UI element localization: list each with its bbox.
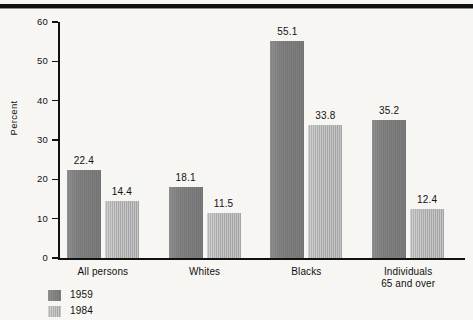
y-tick-10 [52,218,58,220]
bar-group: 55.133.8Blacks [270,22,342,258]
y-tick-40 [52,100,58,102]
bar-value-label: 22.4 [74,156,94,166]
y-tick-0 [52,257,58,259]
y-tick-60 [52,21,58,23]
y-tick-30 [52,139,58,141]
bar-group: 18.111.5Whites [169,22,241,258]
legend-item-1984[interactable]: 1984 [48,304,93,318]
plot-area: 0102030405060 22.414.4All persons18.111.… [58,22,465,258]
bar-1959-3[interactable] [270,41,304,258]
y-tick-label-30: 30 [2,135,48,145]
top-rule-divider [0,4,473,8]
legend-swatch-1959 [48,290,61,301]
bar-1959-4[interactable] [372,120,406,258]
y-tick-label-60: 60 [2,17,48,27]
y-tick-label-20: 20 [2,174,48,184]
y-tick-label-50: 50 [2,56,48,66]
legend-item-1959[interactable]: 1959 [48,288,93,302]
bar-group: 22.414.4All persons [67,22,139,258]
y-tick-label-0: 0 [2,253,48,263]
bar-1984-4[interactable] [410,209,444,258]
x-category-label: Blacks [291,266,321,278]
x-category-label: Individuals 65 and over [381,266,435,289]
y-tick-50 [52,61,58,63]
chart-figure: Percent 0102030405060 22.414.4All person… [0,0,473,320]
y-tick-label-40: 40 [2,96,48,106]
y-axis-line [58,22,60,258]
bar-1984-2[interactable] [207,213,241,258]
bar-value-label: 12.4 [417,195,437,205]
bar-group: 35.212.4Individuals 65 and over [372,22,444,258]
x-category-label: Whites [189,266,220,278]
bar-1984-1[interactable] [105,201,139,258]
y-tick-20 [52,179,58,181]
chart-legend: 1959 1984 [48,288,93,320]
legend-label-1984: 1984 [70,306,93,316]
x-axis-line [58,258,465,260]
bar-1959-1[interactable] [67,170,101,258]
bar-value-label: 33.8 [315,111,335,121]
bar-value-label: 35.2 [379,106,399,116]
legend-label-1959: 1959 [70,290,93,300]
bar-1984-3[interactable] [308,125,342,258]
y-tick-label-10: 10 [2,214,48,224]
bar-1959-2[interactable] [169,187,203,258]
legend-swatch-1984 [48,306,61,317]
bar-value-label: 14.4 [112,187,132,197]
bar-value-label: 55.1 [277,27,297,37]
bar-value-label: 18.1 [175,173,195,183]
bar-value-label: 11.5 [214,199,234,209]
y-axis-tick-labels: 0102030405060 [2,22,48,258]
x-category-label: All persons [78,266,129,278]
